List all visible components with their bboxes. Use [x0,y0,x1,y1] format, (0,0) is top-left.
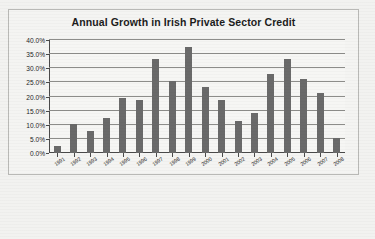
x-axis-tick-label-1997: 1997 [151,156,164,167]
bar-2008 [333,138,340,153]
y-axis-tick-label: 25.0% [26,79,45,86]
x-label-slot: 1993 [82,157,98,175]
x-axis-tick-label-2007: 2007 [316,156,329,167]
bar-2001 [218,100,225,153]
y-axis-tick-mark [46,153,49,154]
x-axis-tick-label-2003: 2003 [250,156,263,167]
bar-1993 [87,131,94,153]
x-axis-tick-label-1994: 1994 [102,156,115,167]
bar-1992 [70,124,77,153]
bar-1996 [136,100,143,153]
x-axis-tick-label-1996: 1996 [135,156,148,167]
chart-title: Annual Growth in Irish Private Sector Cr… [9,16,358,28]
x-label-slot: 1996 [131,157,147,175]
x-axis-tick-label-1998: 1998 [168,156,181,167]
bar-series [49,40,345,153]
bar-slot [164,40,180,153]
x-label-slot: 2001 [213,157,229,175]
bar-2005 [284,59,291,153]
x-label-slot: 1991 [49,157,65,175]
bar-1999 [185,47,192,153]
y-axis-tick-label: 15.0% [26,107,45,114]
x-label-slot: 1994 [98,157,114,175]
y-axis-tick-label: 10.0% [26,121,45,128]
x-label-slot: 1992 [65,157,81,175]
x-axis-tick-label-2006: 2006 [299,156,312,167]
x-label-slot: 2004 [263,157,279,175]
bar-1995 [119,98,126,153]
y-axis-tick-label: 40.0% [26,37,45,44]
x-label-slot: 2000 [197,157,213,175]
plot-area: 40.0%35.0%30.0%25.0%20.0%15.0%10.0%5.0%0… [49,40,345,153]
bar-slot [98,40,114,153]
bar-2002 [235,121,242,153]
y-axis-tick-label: 35.0% [26,51,45,58]
bar-slot [246,40,262,153]
x-axis-tick-label-1995: 1995 [118,156,131,167]
x-label-slot: 2005 [279,157,295,175]
bar-slot [328,40,344,153]
chart-frame: Annual Growth in Irish Private Sector Cr… [8,9,359,175]
bar-slot [181,40,197,153]
bar-slot [312,40,328,153]
y-axis-tick-label: 30.0% [26,65,45,72]
bar-2006 [300,79,307,153]
x-label-slot: 1995 [115,157,131,175]
x-axis-tick-label-1999: 1999 [184,156,197,167]
bar-1991 [54,146,61,153]
x-axis-tick-label-2005: 2005 [283,156,296,167]
bar-slot [49,40,65,153]
bar-slot [82,40,98,153]
x-axis-tick-label-1993: 1993 [85,156,98,167]
bar-slot [263,40,279,153]
y-axis-tick-label: 20.0% [26,93,45,100]
bar-2007 [317,93,324,153]
bar-slot [213,40,229,153]
bar-1997 [152,59,159,153]
x-axis-tick-label-1992: 1992 [69,156,82,167]
x-axis-tick-label-2000: 2000 [200,156,213,167]
x-label-slot: 1999 [181,157,197,175]
x-label-slot: 1998 [164,157,180,175]
bar-slot [65,40,81,153]
x-axis-labels: 1991199219931994199519961997199819992000… [49,157,345,175]
y-axis-tick-label: 0.0% [30,150,45,157]
bar-2004 [267,74,274,153]
bar-slot [296,40,312,153]
x-label-slot: 2003 [246,157,262,175]
bar-1994 [103,118,110,153]
x-label-slot: 2008 [328,157,344,175]
bar-slot [148,40,164,153]
x-label-slot: 1997 [148,157,164,175]
x-label-slot: 2007 [312,157,328,175]
bar-slot [230,40,246,153]
y-axis-tick-label: 5.0% [30,135,45,142]
bar-2003 [251,113,258,153]
x-axis-tick-label-2008: 2008 [332,156,345,167]
bar-1998 [169,81,176,153]
bar-slot [279,40,295,153]
x-label-slot: 2002 [230,157,246,175]
x-label-slot: 2006 [296,157,312,175]
bar-slot [115,40,131,153]
bar-slot [197,40,213,153]
x-axis-tick-label-2001: 2001 [217,156,230,167]
x-axis-tick-label-2002: 2002 [233,156,246,167]
bar-2000 [202,87,209,153]
x-axis-tick-label-1991: 1991 [53,156,66,167]
bar-slot [131,40,147,153]
x-axis-tick-label-2004: 2004 [266,156,279,167]
